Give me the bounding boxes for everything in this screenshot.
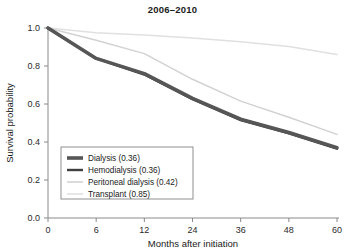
series-line-hemodialysis [48, 28, 337, 149]
y-tick-label: 0.6 [27, 99, 40, 109]
legend-label-dialysis: Dialysis (0.36) [88, 154, 140, 163]
y-axis-title: Survival probability [4, 83, 15, 163]
series-line-dialysis [48, 28, 337, 148]
x-axis-ticks: 061224364860 [45, 218, 342, 235]
data-series-group [48, 28, 337, 149]
chart-legend: Dialysis (0.36)Hemodialysis (0.36)Perito… [61, 147, 193, 199]
legend-label-transplant: Transplant (0.85) [88, 190, 150, 199]
series-line-peritoneal-dialysis [48, 28, 337, 134]
y-axis-ticks: 0.00.20.40.60.81.0 [27, 23, 48, 223]
legend-label-peritoneal-dialysis: Peritoneal dialysis (0.42) [88, 178, 178, 187]
y-tick-label: 0.2 [27, 175, 40, 185]
legend-label-hemodialysis: Hemodialysis (0.36) [88, 166, 161, 175]
x-axis-title: Months after initiation [148, 238, 238, 249]
y-tick-label: 0.0 [27, 213, 40, 223]
x-tick-label: 12 [139, 225, 149, 235]
x-tick-label: 36 [236, 225, 246, 235]
series-line-transplant [48, 28, 337, 55]
y-tick-label: 0.4 [27, 137, 40, 147]
x-tick-label: 0 [45, 225, 50, 235]
x-tick-label: 24 [187, 225, 197, 235]
y-tick-label: 1.0 [27, 23, 40, 33]
x-tick-label: 48 [284, 225, 294, 235]
x-tick-label: 60 [332, 225, 342, 235]
y-tick-label: 0.8 [27, 61, 40, 71]
chart-plot-area: 0.00.20.40.60.81.0 061224364860 Months a… [0, 0, 345, 252]
chart-figure: 2006–2010 0.00.20.40.60.81.0 06122436486… [0, 0, 345, 252]
x-tick-label: 6 [94, 225, 99, 235]
